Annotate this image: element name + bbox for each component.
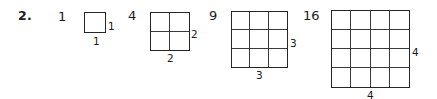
side-dimension-label: 3 bbox=[290, 38, 297, 49]
square-number-value: 9 bbox=[209, 9, 217, 22]
grid-cell bbox=[351, 68, 370, 87]
grid-cell bbox=[232, 12, 250, 30]
grid-cell bbox=[250, 30, 268, 48]
grid-cell bbox=[351, 49, 370, 68]
square-number-value: 1 bbox=[58, 10, 66, 23]
grid-cell bbox=[390, 11, 409, 30]
worksheet-figure-panel: 2. 1114229331644 bbox=[0, 0, 437, 99]
square-grid bbox=[331, 10, 410, 88]
exercise-number: 2. bbox=[18, 10, 32, 23]
grid-cell bbox=[269, 30, 287, 48]
bottom-dimension-label: 1 bbox=[93, 36, 100, 47]
grid-cell bbox=[151, 13, 170, 32]
grid-cell bbox=[332, 49, 351, 68]
grid-cell bbox=[371, 30, 390, 49]
grid-cell bbox=[371, 68, 390, 87]
grid-cell bbox=[269, 12, 287, 30]
grid-cell bbox=[351, 30, 370, 49]
side-dimension-label: 4 bbox=[412, 47, 419, 58]
side-dimension-label: 2 bbox=[191, 29, 198, 40]
square-number-value: 16 bbox=[303, 9, 320, 22]
grid-cell bbox=[232, 49, 250, 67]
grid-cell bbox=[371, 11, 390, 30]
grid-cell bbox=[170, 13, 189, 32]
grid-cell bbox=[332, 11, 351, 30]
square-number-value: 4 bbox=[128, 9, 136, 22]
grid-cell bbox=[371, 49, 390, 68]
side-dimension-label: 1 bbox=[108, 21, 115, 32]
grid-cell bbox=[250, 49, 268, 67]
grid-cell bbox=[332, 68, 351, 87]
bottom-dimension-label: 2 bbox=[167, 53, 174, 64]
square-grid bbox=[231, 11, 288, 68]
grid-cell bbox=[85, 13, 105, 32]
grid-cell bbox=[351, 11, 370, 30]
grid-cell bbox=[170, 32, 189, 51]
square-grid bbox=[84, 12, 106, 33]
grid-cell bbox=[390, 49, 409, 68]
bottom-dimension-label: 4 bbox=[367, 90, 374, 99]
square-grid bbox=[150, 12, 190, 51]
grid-cell bbox=[250, 12, 268, 30]
bottom-dimension-label: 3 bbox=[256, 70, 263, 81]
grid-cell bbox=[269, 49, 287, 67]
grid-cell bbox=[390, 30, 409, 49]
grid-cell bbox=[232, 30, 250, 48]
grid-cell bbox=[332, 30, 351, 49]
grid-cell bbox=[151, 32, 170, 51]
grid-cell bbox=[390, 68, 409, 87]
